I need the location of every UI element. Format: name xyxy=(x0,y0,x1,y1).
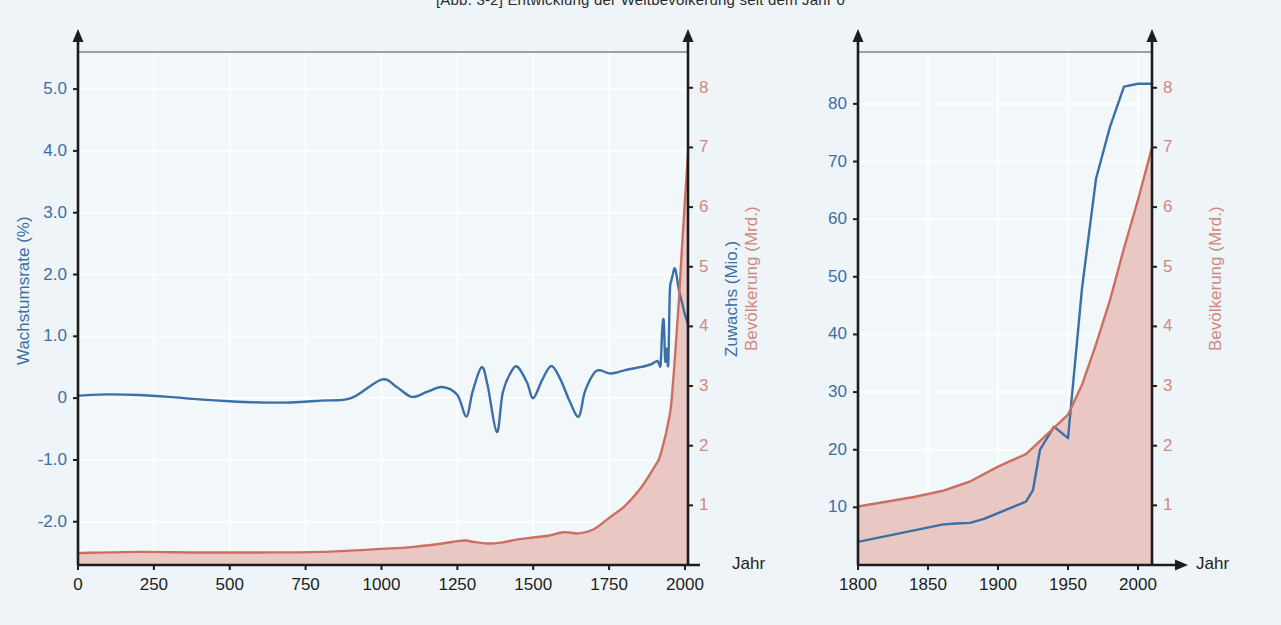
right-chart-y-left-tick: 60 xyxy=(828,209,847,229)
right-chart-x-tick: 1800 xyxy=(839,575,877,595)
right-chart-x-tick: 1950 xyxy=(1049,575,1087,595)
left-chart-x-tick: 750 xyxy=(291,575,319,595)
left-chart-y-left-tick: 5.0 xyxy=(43,79,67,99)
left-chart-x-tick: 1750 xyxy=(590,575,628,595)
right-chart-y-left-tick: 50 xyxy=(828,267,847,287)
left-chart-y-left-tick: -1.0 xyxy=(38,450,67,470)
right-chart-y-left-tick: 70 xyxy=(828,152,847,172)
left-chart-canvas xyxy=(0,0,700,625)
left-chart-x-tick: 1000 xyxy=(363,575,401,595)
right-chart-x-tick: 1900 xyxy=(979,575,1017,595)
left-chart-x-tick: 0 xyxy=(73,575,82,595)
left-chart-left-axis-title: Wachstumsrate (%) xyxy=(14,216,34,365)
left-chart-x-tick: 1500 xyxy=(514,575,552,595)
right-chart-y-right-tick: 6 xyxy=(1163,197,1172,217)
right-chart-y-left-tick: 80 xyxy=(828,94,847,114)
right-chart-y-right-tick: 3 xyxy=(1163,376,1172,396)
left-chart-x-tick: 250 xyxy=(140,575,168,595)
right-chart-y-left-tick: 40 xyxy=(828,324,847,344)
right-chart-y-right-tick: 2 xyxy=(1163,436,1172,456)
right-chart-y-right-tick: 4 xyxy=(1163,316,1172,336)
left-chart-y-left-tick: 1.0 xyxy=(43,326,67,346)
right-chart-y-left-tick: 30 xyxy=(828,382,847,402)
left-chart-x-tick: 2000 xyxy=(666,575,704,595)
right-chart-right-axis-title: Bevölkerung (Mrd.) xyxy=(1206,206,1226,351)
right-chart-y-right-tick: 5 xyxy=(1163,257,1172,277)
right-chart-y-right-tick: 7 xyxy=(1163,137,1172,157)
left-chart-y-left-tick: 3.0 xyxy=(43,203,67,223)
right-chart-y-left-tick: 10 xyxy=(828,497,847,517)
right-chart-y-right-tick: 1 xyxy=(1163,495,1172,515)
right-chart-y-left-tick: 20 xyxy=(828,440,847,460)
left-chart-y-left-tick: -2.0 xyxy=(38,512,67,532)
right-chart-left-axis-title: Zuwachs (Mio.) xyxy=(722,240,742,356)
left-chart-y-left-tick: 2.0 xyxy=(43,265,67,285)
right-chart-x-axis-unit: Jahr xyxy=(1196,554,1229,574)
chart-panel-left: Wachstumsrate (%) Bevölkerung (Mrd.) Jah… xyxy=(0,0,700,625)
right-chart-y-right-tick: 8 xyxy=(1163,78,1172,98)
left-chart-x-tick: 500 xyxy=(216,575,244,595)
right-chart-x-tick: 2000 xyxy=(1119,575,1157,595)
right-chart-canvas xyxy=(700,0,1281,625)
chart-panel-right: Zuwachs (Mio.) Bevölkerung (Mrd.) Jahr 8… xyxy=(700,0,1281,625)
left-chart-y-left-tick: 4.0 xyxy=(43,141,67,161)
right-chart-x-tick: 1850 xyxy=(909,575,947,595)
left-chart-y-left-tick: 0 xyxy=(58,388,67,408)
left-chart-x-tick: 1250 xyxy=(438,575,476,595)
